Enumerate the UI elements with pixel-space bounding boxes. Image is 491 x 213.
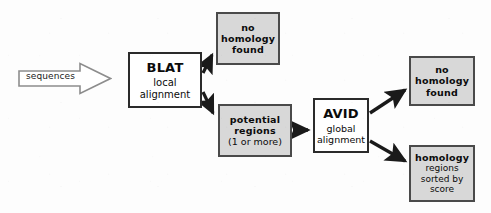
edge-avid-to-no-homology <box>370 90 405 113</box>
node-homology-regions-sorted-line3: sorted by <box>421 174 464 185</box>
node-avid: AVID global alignment <box>313 98 369 153</box>
node-avid-subtitle-line2: alignment <box>317 134 365 145</box>
node-no-homology-found-avid-line1: no <box>435 64 449 75</box>
edge-avid-to-homology-regions <box>370 141 405 161</box>
node-no-homology-found-blat-line2: homology <box>221 33 275 44</box>
node-no-homology-found-blat: no homology found <box>216 12 280 65</box>
node-potential-regions: potential regions (1 or more) <box>218 104 292 157</box>
node-potential-regions-line1: potential <box>230 114 280 125</box>
node-homology-regions-sorted: homology regions sorted by score <box>409 145 475 202</box>
node-no-homology-found-blat-line1: no <box>241 22 255 33</box>
node-no-homology-found-avid: no homology found <box>409 56 475 106</box>
node-potential-regions-line3: (1 or more) <box>228 136 282 147</box>
node-avid-subtitle-line1: global <box>327 123 356 134</box>
flowchart-diagram: sequences BLAT local alignment no homolo… <box>0 0 491 213</box>
node-homology-regions-sorted-line1: homology <box>415 152 469 163</box>
sequences-label: sequences <box>26 71 75 81</box>
edge-blat-to-potential-regions <box>203 92 213 113</box>
node-blat-title: BLAT <box>147 60 184 75</box>
node-no-homology-found-avid-line3: found <box>426 87 458 98</box>
node-no-homology-found-avid-line2: homology <box>415 75 469 86</box>
node-potential-regions-line2: regions <box>234 125 276 136</box>
node-homology-regions-sorted-line2: regions <box>425 163 458 174</box>
node-avid-title: AVID <box>323 106 359 121</box>
node-no-homology-found-blat-line3: found <box>232 44 264 55</box>
node-blat-subtitle-line1: local <box>153 77 176 89</box>
node-blat-subtitle-line2: alignment <box>140 89 191 101</box>
edge-blat-to-no-homology <box>203 55 212 73</box>
node-blat: BLAT local alignment <box>128 52 202 108</box>
node-homology-regions-sorted-line4: score <box>430 184 454 195</box>
